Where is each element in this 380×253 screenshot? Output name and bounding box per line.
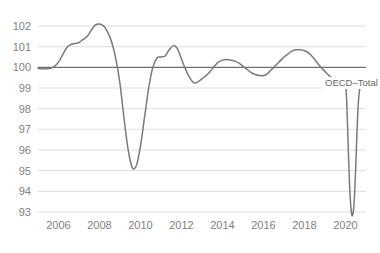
x-tick-label-2020: 2020: [333, 219, 357, 231]
data-series: [38, 24, 362, 216]
chart-container: 10210110099989796959493 2006200820102012…: [0, 0, 380, 253]
y-tick-label-98: 98: [19, 103, 31, 115]
y-tick-label-102: 102: [13, 20, 31, 32]
x-tick-label-2016: 2016: [251, 219, 275, 231]
annotation-label-oecd-total: OECD–Total: [325, 77, 378, 88]
x-tick-label-2010: 2010: [128, 219, 152, 231]
y-tick-label-93: 93: [19, 206, 31, 218]
y-tick-label-100: 100: [13, 61, 31, 73]
x-tick-label-2018: 2018: [292, 219, 316, 231]
y-tick-label-94: 94: [19, 185, 31, 197]
y-tick-label-95: 95: [19, 165, 31, 177]
x-axis-tick-labels: 20062008201020122014201620182020: [46, 219, 357, 231]
series-annotation-oecd-total: OECD–Total: [323, 77, 380, 89]
x-tick-label-2006: 2006: [46, 219, 70, 231]
series-line-0: [38, 24, 362, 216]
y-tick-label-96: 96: [19, 144, 31, 156]
x-tick-label-2012: 2012: [169, 219, 193, 231]
y-axis-tick-labels: 10210110099989796959493: [13, 20, 31, 218]
line-chart: 10210110099989796959493 2006200820102012…: [0, 0, 380, 253]
x-tick-label-2014: 2014: [210, 219, 234, 231]
x-tick-label-2008: 2008: [87, 219, 111, 231]
y-tick-label-97: 97: [19, 123, 31, 135]
gridlines: [38, 26, 366, 212]
y-tick-label-101: 101: [13, 41, 31, 53]
y-tick-label-99: 99: [19, 82, 31, 94]
